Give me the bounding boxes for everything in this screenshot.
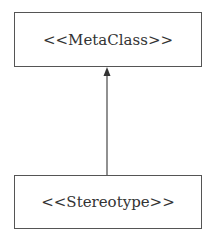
arrowhead-icon [104,67,111,76]
stereotype-node: <<Stereotype>> [14,175,202,229]
stereotype-label: <<Stereotype>> [41,193,175,211]
